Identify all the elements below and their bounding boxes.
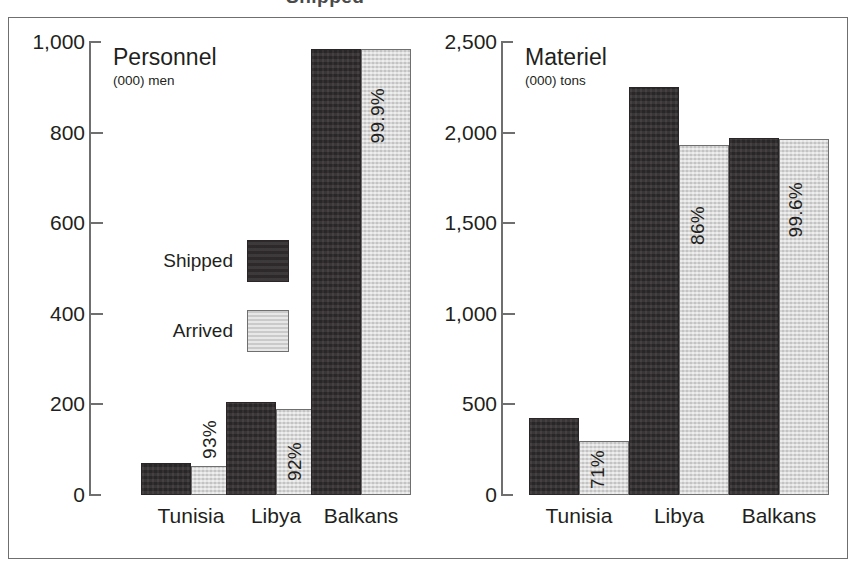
y-axis-labels-personnel: 1,000 800 600 400 200 0 [9, 42, 85, 495]
y-ticklabel-400: 400 [50, 302, 85, 326]
title-remnant-text: Shipped [286, 0, 364, 8]
bar-personnel-tunisia-shipped[interactable] [141, 463, 191, 495]
pct-label-personnel-libya: 92% [284, 442, 306, 481]
bar-materiel-balkans-shipped[interactable] [729, 138, 779, 495]
bar-group-personnel-balkans[interactable]: 99.9% Balkans [311, 42, 411, 495]
figure-frame: Personnel (000) men 1,000 800 600 400 20… [8, 17, 848, 559]
y-ticklabel-500: 500 [462, 392, 497, 416]
y-axis-labels-materiel: 2,500 2,000 1,500 1,000 500 0 [421, 42, 497, 495]
bar-personnel-libya-shipped[interactable] [226, 402, 276, 495]
y-ticklabel-1500: 1,500 [444, 211, 497, 235]
cut-off-title-remnant: Shipped [0, 0, 857, 14]
y-ticklabel-2000: 2,000 [444, 121, 497, 145]
chart-panel-personnel: Personnel (000) men 1,000 800 600 400 20… [9, 18, 429, 560]
pct-label-materiel-balkans: 99.6% [785, 182, 807, 237]
y-ticklabel-800: 800 [50, 121, 85, 145]
bar-personnel-balkans-shipped[interactable] [311, 49, 361, 495]
y-ticklabel-600: 600 [50, 211, 85, 235]
y-ticklabel-1000: 1,000 [444, 302, 497, 326]
x-category-label-personnel-balkans: Balkans [293, 504, 429, 528]
pct-label-personnel-tunisia: 93% [199, 420, 221, 459]
plot-area-materiel: 71% Tunisia 86% Libya 99.6% Balkans [511, 42, 841, 495]
y-ticklabel-200: 200 [50, 392, 85, 416]
bar-group-materiel-tunisia[interactable]: 71% Tunisia [529, 42, 629, 495]
y-ticklabel-2500: 2,500 [444, 30, 497, 54]
bar-group-materiel-balkans[interactable]: 99.6% Balkans [729, 42, 829, 495]
y-ticklabel-0: 0 [73, 483, 85, 507]
y-ticklabel-0: 0 [485, 483, 497, 507]
pct-label-materiel-tunisia: 71% [587, 450, 609, 489]
y-ticklabel-1000: 1,000 [32, 30, 85, 54]
x-category-label-materiel-balkans: Balkans [711, 504, 847, 528]
bar-materiel-libya-shipped[interactable] [629, 87, 679, 495]
scan-speck [817, 176, 820, 179]
plot-area-personnel: Shipped Arrived 93% Tunisia 92% [99, 42, 419, 495]
bar-materiel-libya-arrived[interactable] [679, 145, 729, 495]
bar-group-materiel-libya[interactable]: 86% Libya [629, 42, 729, 495]
pct-label-materiel-libya: 86% [687, 206, 709, 245]
pct-label-personnel-balkans: 99.9% [367, 88, 389, 143]
bar-materiel-tunisia-shipped[interactable] [529, 418, 579, 495]
chart-panel-materiel: Materiel (000) tons 2,500 2,000 1,500 1,… [421, 18, 849, 560]
